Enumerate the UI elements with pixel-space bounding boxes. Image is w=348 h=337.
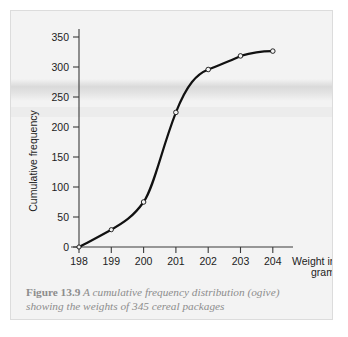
x-tick-label: 199 [103, 255, 121, 267]
x-tick-label: 198 [70, 255, 88, 267]
x-axis-title: Weight in grams [292, 255, 333, 278]
figure-number: Figure 13.9 [26, 286, 80, 298]
y-tick-label: 350 [51, 31, 69, 43]
data-point-marker [109, 228, 113, 232]
x-tick-label: 202 [199, 255, 217, 267]
x-tick-label: 201 [167, 255, 185, 267]
y-tick-label: 250 [51, 91, 69, 103]
figure-caption: Figure 13.9 A cumulative frequency distr… [26, 286, 311, 313]
data-point-marker [141, 200, 146, 205]
y-tick-label: 0 [63, 241, 69, 253]
x-axis-title-line2: grams [311, 266, 333, 278]
y-tick-label: 300 [51, 61, 69, 73]
y-axis-title: Cumulative frequency [27, 109, 39, 211]
data-point-marker [238, 54, 243, 59]
data-point-marker [206, 67, 211, 72]
figure-container: Cumulative frequency 350 300 250 200 150… [10, 10, 333, 320]
data-point-marker [77, 245, 81, 249]
y-tick-label: 100 [51, 181, 69, 193]
y-tick-label: 200 [51, 121, 69, 133]
ogive-data-markers [77, 49, 275, 249]
ogive-curve [79, 51, 273, 247]
x-tick-label: 200 [135, 255, 153, 267]
x-tick-label: 203 [232, 255, 250, 267]
y-axis-ticks [73, 37, 79, 247]
data-point-marker [174, 110, 179, 115]
x-axis-tick-labels: 198 199 200 201 202 203 204 [70, 255, 281, 267]
y-axis-tick-labels: 350 300 250 200 150 100 50 0 [51, 31, 69, 253]
y-tick-label: 150 [51, 151, 69, 163]
ogive-chart: Cumulative frequency 350 300 250 200 150… [11, 11, 333, 320]
x-axis-ticks [79, 247, 273, 253]
data-point-marker [271, 49, 276, 54]
y-tick-label: 50 [57, 211, 69, 223]
x-tick-label: 204 [264, 255, 282, 267]
